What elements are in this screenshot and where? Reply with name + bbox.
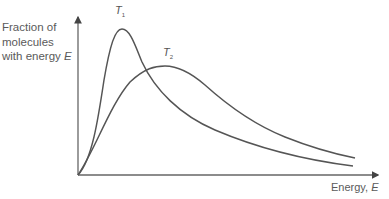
plot-area (0, 0, 389, 199)
x-label-var: E (371, 181, 378, 193)
curve-t2 (78, 66, 355, 175)
t1-label: T1 (115, 4, 125, 18)
curve-t1 (78, 29, 353, 175)
t2-label: T2 (163, 46, 173, 60)
x-axis-label: Energy, E (331, 181, 379, 193)
x-label-text: Energy, (331, 181, 371, 193)
